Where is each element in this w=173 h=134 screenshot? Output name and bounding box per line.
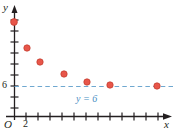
scatter-plot-figure: y x O 2 6 y = 6 (0, 0, 173, 134)
scatter-points (11, 19, 161, 90)
x-axis-label: x (164, 119, 169, 130)
data-point (84, 79, 90, 85)
plot-canvas (0, 0, 173, 134)
origin-label: O (4, 119, 12, 130)
data-point (107, 82, 113, 88)
data-point (37, 59, 43, 65)
x-axis (6, 113, 172, 119)
x-tick-label-2: 2 (23, 119, 28, 129)
data-point (24, 45, 30, 51)
asymptote-label: y = 6 (76, 94, 97, 104)
data-point (61, 71, 67, 77)
data-point (11, 19, 18, 26)
y-tick-label-6: 6 (2, 80, 7, 90)
y-axis-label: y (3, 2, 8, 13)
data-point (154, 83, 160, 89)
